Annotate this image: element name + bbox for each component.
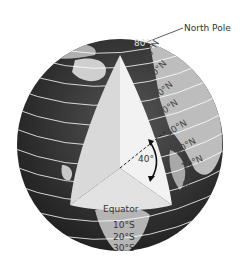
equator-label: Equator	[103, 204, 139, 214]
globe-diagram: 40° North Pole 80°N70°N60°N50°N40°N30°N2…	[0, 0, 240, 257]
latitude-label: 10°S	[113, 220, 135, 230]
latitude-label: 30°S	[113, 243, 135, 253]
north-pole-label: North Pole	[184, 23, 231, 33]
angle-label: 40°	[138, 154, 154, 164]
latitude-label: 20°S	[113, 232, 135, 242]
